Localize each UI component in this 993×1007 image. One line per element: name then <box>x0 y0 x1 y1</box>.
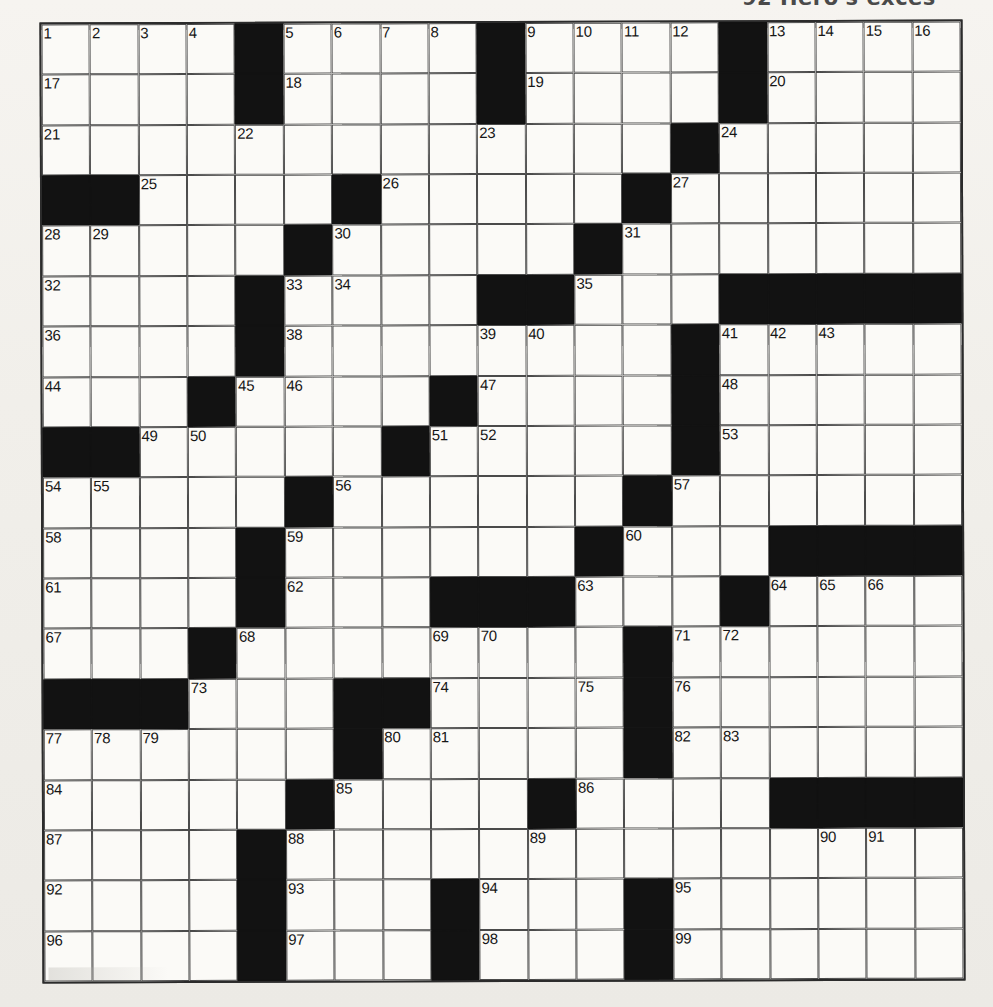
letter-square[interactable] <box>141 880 190 931</box>
letter-square[interactable]: 6 <box>332 23 381 74</box>
letter-square[interactable]: 20 <box>767 72 816 123</box>
letter-square[interactable]: 31 <box>623 224 672 275</box>
letter-square[interactable] <box>719 173 768 224</box>
letter-square[interactable] <box>914 676 963 727</box>
letter-square[interactable] <box>865 374 914 425</box>
letter-square[interactable] <box>382 527 431 578</box>
letter-square[interactable] <box>285 426 334 477</box>
letter-square[interactable] <box>671 274 720 325</box>
letter-square[interactable]: 5 <box>283 24 332 75</box>
letter-square[interactable] <box>381 477 430 528</box>
letter-square[interactable] <box>623 325 672 376</box>
letter-square[interactable] <box>817 626 866 677</box>
letter-square[interactable] <box>574 174 623 225</box>
letter-square[interactable] <box>527 476 576 527</box>
letter-square[interactable] <box>816 123 865 174</box>
letter-square[interactable] <box>770 929 819 980</box>
letter-square[interactable] <box>526 224 575 275</box>
letter-square[interactable] <box>670 73 719 124</box>
letter-square[interactable] <box>189 729 238 780</box>
letter-square[interactable]: 8 <box>428 23 477 74</box>
letter-square[interactable] <box>864 223 913 274</box>
letter-square[interactable]: 39 <box>478 325 527 376</box>
letter-square[interactable]: 45 <box>236 376 285 427</box>
letter-square[interactable] <box>479 678 528 729</box>
letter-square[interactable] <box>528 929 577 980</box>
letter-square[interactable] <box>140 477 189 528</box>
letter-square[interactable] <box>525 124 574 175</box>
letter-square[interactable] <box>141 830 190 881</box>
letter-square[interactable] <box>380 124 429 175</box>
letter-square[interactable]: 51 <box>430 426 479 477</box>
letter-square[interactable] <box>138 74 187 125</box>
letter-square[interactable] <box>575 627 624 678</box>
letter-square[interactable] <box>526 174 575 225</box>
letter-square[interactable] <box>913 374 962 425</box>
letter-square[interactable]: 74 <box>430 678 479 729</box>
letter-square[interactable]: 63 <box>575 577 624 628</box>
letter-square[interactable]: 29 <box>90 226 139 277</box>
letter-square[interactable]: 71 <box>672 627 721 678</box>
letter-square[interactable]: 24 <box>719 123 768 174</box>
letter-square[interactable] <box>139 377 188 428</box>
letter-square[interactable] <box>575 426 624 477</box>
letter-square[interactable] <box>623 425 672 476</box>
letter-square[interactable] <box>527 526 576 577</box>
letter-square[interactable] <box>527 728 576 779</box>
letter-square[interactable] <box>334 880 383 931</box>
letter-square[interactable]: 61 <box>43 578 92 629</box>
letter-square[interactable] <box>187 125 236 176</box>
letter-square[interactable] <box>865 324 914 375</box>
letter-square[interactable]: 96 <box>44 931 93 982</box>
letter-square[interactable]: 52 <box>478 426 527 477</box>
letter-square[interactable] <box>332 124 381 175</box>
letter-square[interactable]: 35 <box>574 274 623 325</box>
letter-square[interactable] <box>767 123 816 174</box>
letter-square[interactable] <box>816 223 865 274</box>
letter-square[interactable]: 95 <box>673 879 722 930</box>
letter-square[interactable] <box>816 72 865 123</box>
letter-square[interactable]: 69 <box>430 627 479 678</box>
letter-square[interactable] <box>333 527 382 578</box>
letter-square[interactable] <box>719 224 768 275</box>
letter-square[interactable] <box>91 276 140 327</box>
letter-square[interactable] <box>864 122 913 173</box>
letter-square[interactable]: 65 <box>817 576 866 627</box>
letter-square[interactable] <box>141 931 190 982</box>
letter-square[interactable]: 84 <box>44 780 93 831</box>
letter-square[interactable] <box>140 628 189 679</box>
letter-square[interactable] <box>479 778 528 829</box>
letter-square[interactable] <box>624 778 673 829</box>
letter-square[interactable] <box>721 778 770 829</box>
letter-square[interactable] <box>430 476 479 527</box>
letter-square[interactable] <box>237 779 286 830</box>
letter-square[interactable] <box>672 576 721 627</box>
letter-square[interactable] <box>913 173 962 224</box>
letter-square[interactable]: 79 <box>140 729 189 780</box>
letter-square[interactable] <box>188 578 237 629</box>
letter-square[interactable] <box>189 779 238 830</box>
letter-square[interactable]: 14 <box>815 22 864 73</box>
letter-square[interactable]: 12 <box>670 22 719 73</box>
letter-square[interactable]: 32 <box>42 276 91 327</box>
letter-square[interactable] <box>139 225 188 276</box>
letter-square[interactable] <box>90 75 139 126</box>
letter-square[interactable] <box>720 475 769 526</box>
letter-square[interactable] <box>624 577 673 628</box>
letter-square[interactable] <box>92 578 141 629</box>
letter-square[interactable]: 94 <box>479 879 528 930</box>
letter-square[interactable] <box>818 727 867 778</box>
letter-square[interactable]: 7 <box>380 23 429 74</box>
letter-square[interactable] <box>91 528 140 579</box>
letter-square[interactable]: 3 <box>138 24 187 75</box>
letter-square[interactable] <box>284 175 333 226</box>
letter-square[interactable] <box>622 73 671 124</box>
letter-square[interactable] <box>912 122 961 173</box>
letter-square[interactable]: 43 <box>816 324 865 375</box>
letter-square[interactable] <box>236 225 285 276</box>
letter-square[interactable] <box>866 626 915 677</box>
letter-square[interactable] <box>866 727 915 778</box>
letter-square[interactable]: 67 <box>43 629 92 680</box>
letter-square[interactable] <box>817 425 866 476</box>
letter-square[interactable] <box>188 477 237 528</box>
